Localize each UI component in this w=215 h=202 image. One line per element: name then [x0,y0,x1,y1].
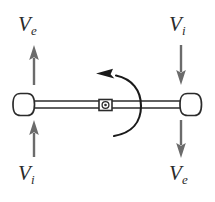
velocity-subscript: e [182,172,188,187]
bottom-right-arrow [176,120,186,158]
bottom-left-arrow-head [29,120,39,135]
velocity-subscript: i [31,172,35,187]
top-right-arrow [176,45,186,85]
physics-diagram: Ve Vi Vi Ve [0,0,215,202]
left-end-cap [13,94,35,116]
left-end-cap-shape [13,94,35,116]
bottom-right-arrow-head [176,143,186,158]
velocity-symbol: V [169,12,182,36]
velocity-symbol: V [169,161,182,185]
top-left-arrow [29,45,39,85]
center-pivot-marker [99,100,112,111]
velocity-symbol: V [18,161,31,185]
top-right-arrow-head [176,70,186,85]
velocity-symbol: V [18,12,31,36]
velocity-subscript: e [31,23,37,38]
bottom-left-arrow [29,120,39,157]
velocity-label-bottom-right: Ve [169,163,188,184]
right-end-cap [180,94,202,116]
rotation-arrow-head [96,69,114,79]
right-end-cap-shape [180,94,202,116]
velocity-subscript: i [182,23,186,38]
velocity-label-top-left: Ve [18,14,37,35]
velocity-label-bottom-left: Vi [18,163,34,184]
pivot-center-dot [104,104,107,107]
top-left-arrow-head [29,45,39,60]
velocity-label-top-right: Vi [169,14,185,35]
